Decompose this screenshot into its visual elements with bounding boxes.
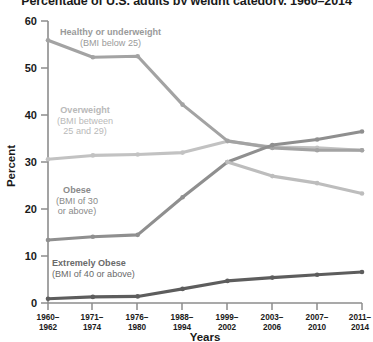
series-label-overweight-sub1: (BMI between: [57, 116, 113, 127]
data-point: [91, 153, 96, 158]
data-point: [225, 279, 230, 284]
series-label-obese-head: Obese: [56, 185, 98, 196]
data-point: [46, 296, 51, 301]
series-label-extremely-obese-sub: (BMI of 40 or above): [52, 269, 135, 280]
series-label-obese-sub2: or above): [56, 206, 98, 217]
x-tick-3-line1: 1988–: [171, 313, 194, 322]
y-tick-10: 10: [25, 250, 37, 262]
x-tick-4-line1: 1999–: [216, 313, 239, 322]
data-point: [91, 55, 96, 60]
series-label-healthy: Healthy or underweight (BMI below 25): [60, 27, 161, 48]
x-tick-7-line1: 2011–: [349, 313, 372, 322]
data-point: [135, 152, 140, 157]
series-label-obese-sub1: (BMI of 30: [56, 196, 98, 207]
y-axis-title: Percent: [5, 145, 17, 187]
data-point: [225, 160, 230, 165]
x-tick-5-line2: 2006: [263, 323, 282, 332]
data-point: [360, 191, 365, 196]
data-point: [315, 148, 320, 153]
x-tick-4-line2: 2002: [218, 323, 237, 332]
data-point: [270, 143, 275, 148]
series-line: [227, 162, 362, 193]
x-axis-title: Years: [190, 331, 221, 342]
y-tick-40: 40: [25, 109, 37, 121]
y-axis: 60 50 40 30 20 10 0 Percent: [5, 15, 48, 309]
data-point: [91, 295, 96, 300]
data-point: [46, 238, 51, 243]
series-label-overweight-sub2: 25 and 29): [57, 126, 113, 137]
data-point: [180, 150, 185, 155]
x-tick-2-line2: 1980: [128, 323, 147, 332]
series-label-extremely-obese: Extremely Obese (BMI of 40 or above): [52, 258, 135, 279]
data-point: [270, 174, 275, 179]
x-tick-2-line1: 1976–: [126, 313, 149, 322]
x-tick-6-line2: 2010: [308, 323, 327, 332]
data-point: [180, 195, 185, 200]
y-tick-20: 20: [25, 203, 37, 215]
series-label-healthy-sub: (BMI below 25): [60, 38, 161, 49]
data-point: [360, 270, 365, 275]
x-axis-ticks: [48, 303, 362, 310]
data-point: [135, 54, 140, 59]
series-label-healthy-head: Healthy or underweight: [60, 27, 161, 38]
data-point: [46, 157, 51, 162]
y-tick-30: 30: [25, 156, 37, 168]
series-label-extremely-obese-head: Extremely Obese: [52, 258, 135, 269]
x-axis: 1960– 1962 1971– 1974 1976– 1980 1988– 1…: [37, 303, 372, 342]
data-point: [315, 273, 320, 278]
data-point: [135, 233, 140, 238]
data-point: [91, 234, 96, 239]
x-tick-6-line1: 2007–: [306, 313, 329, 322]
y-axis-ticks: [41, 21, 48, 303]
data-point: [46, 38, 51, 43]
x-tick-5-line1: 2003–: [261, 313, 284, 322]
y-tick-50: 50: [25, 62, 37, 74]
bmi-trend-line-chart: Percentage of U.S. adults by weight cate…: [0, 0, 373, 342]
data-point: [270, 275, 275, 280]
data-point: [315, 181, 320, 186]
data-point: [180, 287, 185, 292]
data-point: [180, 102, 185, 107]
data-point: [315, 137, 320, 142]
data-point: [135, 294, 140, 299]
x-tick-1-line1: 1971–: [81, 313, 104, 322]
x-tick-7-line2: 2014: [351, 323, 370, 332]
x-tick-0-line2: 1962: [39, 323, 58, 332]
series-label-overweight-head: Overweight: [57, 105, 113, 116]
y-tick-60: 60: [25, 15, 37, 27]
chart-plot-area: 60 50 40 30 20 10 0 Percent 1960– 1962: [0, 0, 373, 342]
x-tick-1-line2: 1974: [83, 323, 102, 332]
series-label-overweight: Overweight (BMI between 25 and 29): [57, 105, 113, 137]
data-point: [360, 129, 365, 134]
series-healthy-continuation: [225, 160, 364, 196]
x-tick-0-line1: 1960–: [37, 313, 60, 322]
data-point: [360, 148, 365, 153]
y-tick-0: 0: [31, 297, 37, 309]
series-label-obese: Obese (BMI of 30 or above): [56, 185, 98, 217]
data-point: [225, 139, 230, 144]
